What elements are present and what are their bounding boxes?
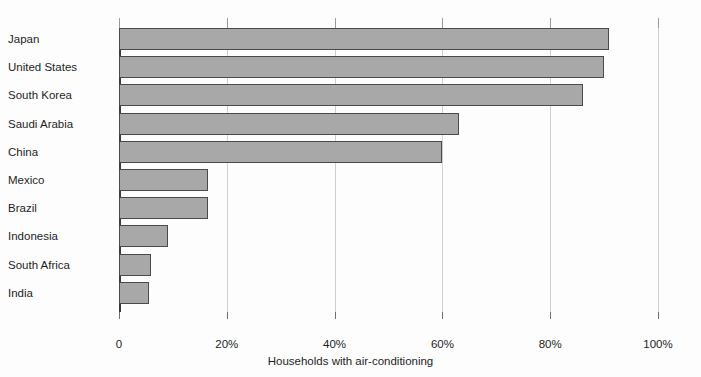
category-label-japan: Japan — [8, 28, 103, 50]
tick-bottom-100% — [658, 312, 659, 319]
tick-bottom-60% — [442, 312, 443, 319]
x-tick-label-60%: 60% — [431, 338, 454, 350]
tick-bottom-20% — [227, 312, 228, 319]
gridline-100% — [658, 28, 659, 312]
bar-south-korea — [119, 84, 583, 106]
category-label-south-korea: South Korea — [8, 84, 103, 106]
bar-row — [119, 141, 658, 163]
category-label-mexico: Mexico — [8, 169, 103, 191]
bar-row — [119, 28, 658, 50]
category-label-indonesia: Indonesia — [8, 225, 103, 247]
bar-brazil — [119, 197, 208, 219]
x-axis-title: Households with air-conditioning — [0, 355, 701, 367]
bar-south-africa — [119, 254, 151, 276]
tick-top-60% — [442, 18, 443, 28]
x-tick-label-100%: 100% — [643, 338, 672, 350]
tick-top-80% — [550, 18, 551, 28]
bar-chart: JapanUnited StatesSouth KoreaSaudi Arabi… — [0, 0, 701, 377]
category-label-saudi-arabia: Saudi Arabia — [8, 113, 103, 135]
bar-row — [119, 282, 658, 304]
bar-india — [119, 282, 149, 304]
bars — [119, 28, 658, 312]
category-label-india: India — [8, 282, 103, 304]
tick-top-20% — [227, 18, 228, 28]
bar-mexico — [119, 169, 208, 191]
bar-row — [119, 225, 658, 247]
tick-bottom-0 — [119, 312, 120, 319]
category-label-united-states: United States — [8, 56, 103, 78]
bar-row — [119, 169, 658, 191]
x-tick-label-80%: 80% — [539, 338, 562, 350]
category-label-china: China — [8, 141, 103, 163]
bar-row — [119, 254, 658, 276]
x-axis-title-text: Households with air-conditioning — [268, 355, 434, 367]
bar-japan — [119, 28, 609, 50]
bar-row — [119, 197, 658, 219]
category-label-brazil: Brazil — [8, 197, 103, 219]
bar-china — [119, 141, 442, 163]
tick-top-40% — [335, 18, 336, 28]
bar-row — [119, 56, 658, 78]
bar-row — [119, 84, 658, 106]
x-tick-label-0: 0 — [116, 338, 122, 350]
tick-top-100% — [658, 18, 659, 28]
bar-row — [119, 113, 658, 135]
plot-area — [119, 28, 658, 312]
bar-saudi-arabia — [119, 113, 459, 135]
category-label-south-africa: South Africa — [8, 254, 103, 276]
tick-bottom-40% — [335, 312, 336, 319]
x-tick-label-40%: 40% — [323, 338, 346, 350]
tick-top-0 — [119, 18, 120, 28]
category-axis: JapanUnited StatesSouth KoreaSaudi Arabi… — [0, 28, 112, 312]
tick-bottom-80% — [550, 312, 551, 319]
x-tick-label-20%: 20% — [215, 338, 238, 350]
bar-united-states — [119, 56, 604, 78]
bar-indonesia — [119, 225, 168, 247]
